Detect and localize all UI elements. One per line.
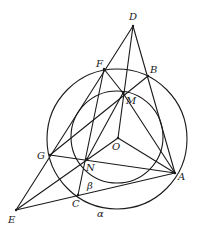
point-label-E: E: [7, 214, 16, 225]
point-D: [132, 25, 134, 27]
point-label-G: G: [37, 150, 45, 161]
point-G: [49, 154, 51, 156]
segment-FM: [104, 69, 123, 93]
segment-EA: [16, 173, 175, 210]
point-A: [174, 172, 176, 174]
angle-label-alpha: α: [97, 208, 104, 219]
segments-group: [16, 26, 175, 210]
point-E: [15, 209, 17, 211]
point-label-O: O: [112, 141, 120, 152]
segment-EO: [16, 138, 118, 210]
point-M: [122, 92, 124, 94]
point-label-N: N: [85, 162, 96, 173]
segment-GA: [50, 155, 175, 173]
segment-DO: [118, 26, 133, 138]
point-label-D: D: [128, 11, 137, 22]
point-label-F: F: [95, 58, 104, 69]
segment-DE: [16, 26, 133, 210]
segment-FC: [78, 69, 104, 195]
point-F: [103, 68, 105, 70]
segment-GB: [50, 76, 148, 155]
point-O: [117, 137, 119, 139]
angle-label-beta: β: [86, 180, 93, 191]
point-label-B: B: [149, 64, 157, 75]
point-B: [147, 75, 149, 77]
point-C: [77, 194, 79, 196]
point-label-C: C: [72, 198, 80, 209]
point-label-M: M: [125, 95, 137, 106]
geometry-diagram: DFBMOGNACEαβ: [0, 0, 197, 231]
point-label-A: A: [177, 171, 185, 182]
point-N: [86, 158, 88, 160]
